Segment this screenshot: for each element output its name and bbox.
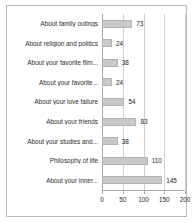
bar[interactable] xyxy=(102,157,148,165)
bar-row[interactable]: About your inner...145 xyxy=(8,170,185,190)
x-axis-tick-marks xyxy=(102,191,185,195)
bar-row[interactable]: About religion and politics24 xyxy=(8,34,185,54)
bar-value-label: 38 xyxy=(122,59,129,66)
bar[interactable] xyxy=(102,59,118,67)
bar-track: 110 xyxy=(102,151,185,171)
tick-mark-150 xyxy=(164,191,165,194)
category-label: About your inner... xyxy=(8,177,102,184)
bar-rows-group: About family outings73About religion and… xyxy=(8,14,185,190)
category-label: About your love failure xyxy=(8,98,102,105)
bar-track: 24 xyxy=(102,73,185,93)
bar-value-label: 54 xyxy=(128,98,135,105)
tick-label-0: 0 xyxy=(100,196,104,204)
category-label: About religion and politics xyxy=(8,40,102,47)
plot-area: About family outings73About religion and… xyxy=(8,8,185,215)
bar-row[interactable]: About family outings73 xyxy=(8,14,185,34)
bar-track: 145 xyxy=(102,170,185,190)
tick-label-50: 50 xyxy=(119,196,126,204)
tick-label-200: 200 xyxy=(180,196,191,204)
bar-track: 38 xyxy=(102,131,185,151)
x-axis-tick-labels: 050100150200 xyxy=(102,196,185,206)
bar-value-label: 38 xyxy=(122,138,129,145)
category-label: About family outings xyxy=(8,20,102,27)
bar[interactable] xyxy=(102,98,124,106)
bar-track: 83 xyxy=(102,112,185,132)
chart-container: About family outings73About religion and… xyxy=(0,0,193,223)
bar-track: 54 xyxy=(102,92,185,112)
bar-value-label: 73 xyxy=(136,20,143,27)
bar-row[interactable]: About your love failure54 xyxy=(8,92,185,112)
category-label: About your favorite film... xyxy=(8,59,102,66)
tick-label-100: 100 xyxy=(138,196,149,204)
bar-value-label: 145 xyxy=(166,177,177,184)
bar[interactable] xyxy=(102,118,136,126)
tick-mark-50 xyxy=(123,191,124,194)
bar-value-label: 24 xyxy=(116,40,123,47)
tick-mark-100 xyxy=(144,191,145,194)
bar-row[interactable]: Philosophy of life110 xyxy=(8,151,185,171)
gridline-200 xyxy=(185,14,186,190)
bar[interactable] xyxy=(102,176,162,184)
category-label: About your studies and... xyxy=(8,138,102,145)
bar-value-label: 83 xyxy=(140,118,147,125)
category-label: About your favorite... xyxy=(8,79,102,86)
tick-label-150: 150 xyxy=(159,196,170,204)
bar-track: 38 xyxy=(102,53,185,73)
bar[interactable] xyxy=(102,78,112,86)
bar-value-label: 110 xyxy=(152,157,162,164)
bar[interactable] xyxy=(102,20,132,28)
bar-row[interactable]: About your favorite...24 xyxy=(8,73,185,93)
bar[interactable] xyxy=(102,39,112,47)
bar-row[interactable]: About your favorite film...38 xyxy=(8,53,185,73)
bar-row[interactable]: About your studies and...38 xyxy=(8,131,185,151)
bar-row[interactable]: About your friends83 xyxy=(8,112,185,132)
bar[interactable] xyxy=(102,137,118,145)
category-label: About your friends xyxy=(8,118,102,125)
bar-value-label: 24 xyxy=(116,79,123,86)
tick-mark-200 xyxy=(185,191,186,194)
bar-track: 24 xyxy=(102,34,185,54)
category-label: Philosophy of life xyxy=(8,157,102,164)
tick-mark-0 xyxy=(102,191,103,194)
bar-track: 73 xyxy=(102,14,185,34)
